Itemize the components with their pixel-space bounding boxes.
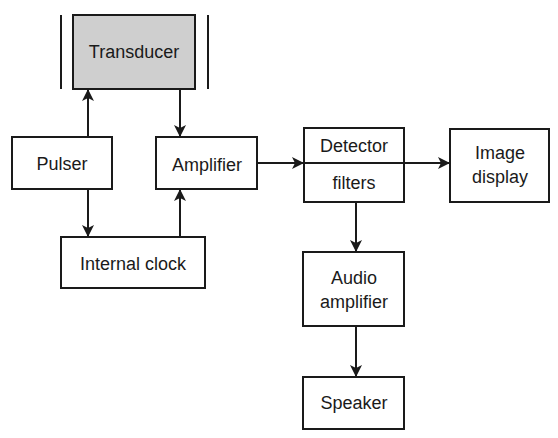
amplifier-label: Amplifier <box>172 155 242 175</box>
detector-filters-block: Detector filters <box>304 128 404 202</box>
filters-label: filters <box>332 173 375 193</box>
pulser-block: Pulser <box>12 137 112 189</box>
transducer-label: Transducer <box>89 42 179 62</box>
internal-clock-block: Internal clock <box>61 237 205 288</box>
transducer-block: Transducer <box>73 15 195 89</box>
block-diagram: Transducer Pulser Amplifier Internal clo… <box>0 0 558 438</box>
audio-amplifier-label-1: Audio <box>331 268 377 288</box>
audio-amplifier-block: Audio amplifier <box>303 252 404 326</box>
internal-clock-label: Internal clock <box>80 254 187 274</box>
image-display-block: Image display <box>450 129 549 202</box>
pulser-label: Pulser <box>36 154 87 174</box>
image-display-label-1: Image <box>475 143 525 163</box>
detector-label: Detector <box>320 136 388 156</box>
audio-amplifier-label-2: amplifier <box>320 292 388 312</box>
speaker-block: Speaker <box>303 377 404 429</box>
speaker-label: Speaker <box>320 393 387 413</box>
amplifier-block: Amplifier <box>156 137 257 189</box>
image-display-label-2: display <box>472 167 528 187</box>
